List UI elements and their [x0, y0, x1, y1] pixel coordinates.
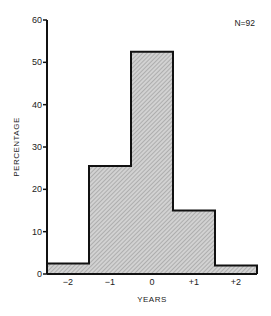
- bar: [173, 211, 215, 275]
- x-tick-label: +1: [189, 277, 199, 287]
- histogram-bars: [47, 52, 257, 274]
- y-axis-title: PERCENTAGE: [12, 117, 21, 177]
- y-tick-label: 20: [32, 184, 42, 194]
- y-tick-label: 50: [32, 57, 42, 67]
- y-tick-label: 40: [32, 100, 42, 110]
- x-axis-title: YEARS: [137, 295, 167, 304]
- bar: [215, 266, 257, 274]
- x-tick-label: +2: [231, 277, 241, 287]
- histogram-chart: 0102030405060 −2−10+1+2 PERCENTAGE YEARS…: [0, 0, 271, 316]
- x-tick-label: −2: [63, 277, 73, 287]
- y-axis: 0102030405060: [32, 15, 47, 279]
- y-tick-label: 60: [32, 15, 42, 25]
- y-tick-label: 10: [32, 227, 42, 237]
- sample-size-annotation: N=92: [234, 18, 255, 28]
- bar: [89, 166, 131, 274]
- bar: [131, 52, 173, 274]
- x-tick-label: −1: [105, 277, 115, 287]
- y-tick-label: 0: [37, 269, 42, 279]
- x-axis: −2−10+1+2: [47, 274, 257, 287]
- y-tick-label: 30: [32, 142, 42, 152]
- x-tick-label: 0: [149, 277, 154, 287]
- bar: [47, 263, 89, 274]
